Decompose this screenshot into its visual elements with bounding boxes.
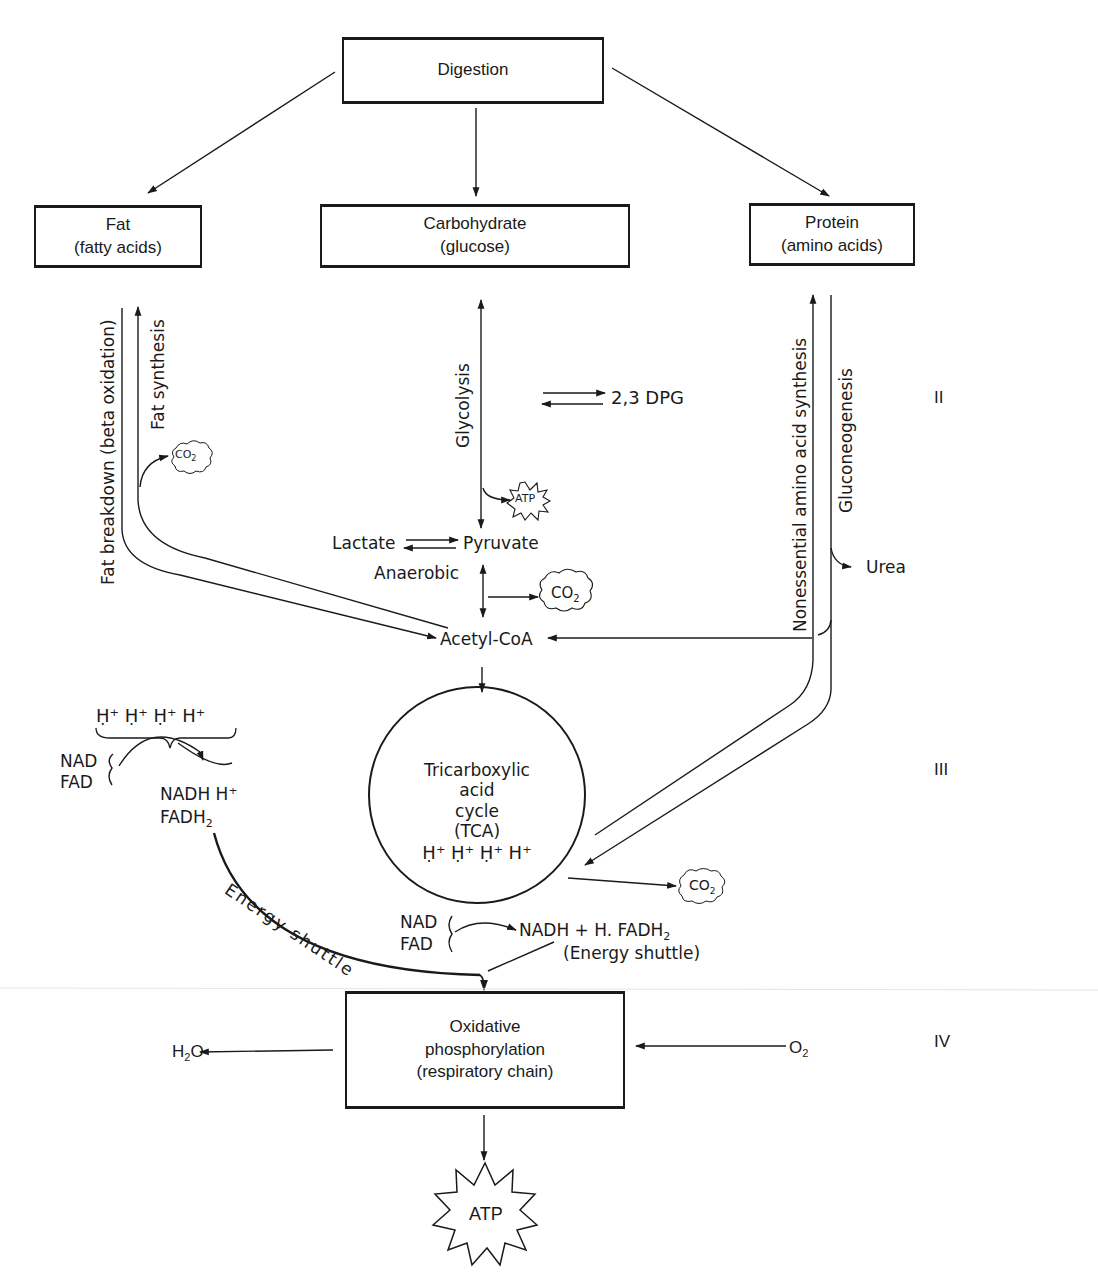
tca-line-3: cycle bbox=[397, 801, 557, 821]
left-nadh: NADH H⁺ bbox=[160, 785, 237, 805]
co2-pyruvate-label: CO2 bbox=[551, 585, 580, 605]
nonessential-amino-acid-label: Nonessential amino acid synthesis bbox=[790, 338, 810, 632]
tca-line-4: (TCA) bbox=[397, 821, 557, 841]
tca-protons: Ḥ⁺ Ḥ⁺ Ḥ⁺ H⁺ bbox=[397, 842, 557, 864]
left-fad: FAD bbox=[60, 773, 93, 793]
oxidative-phosphorylation-box: Oxidative phosphorylation (respiratory c… bbox=[345, 991, 625, 1109]
tca-energy-shuttle: (Energy shuttle) bbox=[563, 944, 700, 964]
fat-box: Fat (fatty acids) bbox=[34, 205, 202, 268]
protein-label: Protein bbox=[805, 212, 859, 235]
protein-sublabel: (amino acids) bbox=[781, 235, 883, 258]
stage-iv-label: IV bbox=[934, 1032, 950, 1052]
dpg-label: 2,3 DPG bbox=[611, 388, 684, 409]
lactate-label: Lactate bbox=[332, 534, 395, 554]
tca-label: Tricarboxylic acid cycle (TCA) Ḥ⁺ Ḥ⁺ H… bbox=[397, 760, 557, 863]
oxidative-label-1: Oxidative bbox=[450, 1016, 521, 1039]
co2-fat-label: CO2 bbox=[175, 449, 196, 463]
digestion-box: Digestion bbox=[342, 37, 604, 104]
tca-line-1: Tricarboxylic bbox=[397, 760, 557, 780]
atp-small-label: ATP bbox=[515, 493, 535, 506]
left-fadh2: FADH2 bbox=[160, 808, 213, 831]
tca-line-2: acid bbox=[397, 780, 557, 800]
tca-products: NADH + H. FADH2 bbox=[519, 921, 670, 944]
fat-sublabel: (fatty acids) bbox=[74, 237, 162, 260]
pyruvate-label: Pyruvate bbox=[463, 534, 539, 554]
urea-label: Urea bbox=[866, 558, 906, 578]
oxidative-label-3: (respiratory chain) bbox=[417, 1061, 554, 1084]
acetyl-coa-label: Acetyl-CoA bbox=[440, 630, 533, 650]
stage-iii-label: III bbox=[934, 760, 948, 780]
atp-final-label: ATP bbox=[469, 1204, 503, 1225]
protein-box: Protein (amino acids) bbox=[749, 203, 915, 266]
oxidative-label-2: phosphorylation bbox=[425, 1039, 545, 1062]
fat-label: Fat bbox=[106, 214, 131, 237]
tca-fad: FAD bbox=[400, 935, 433, 955]
gluconeogenesis-label: Gluconeogenesis bbox=[836, 368, 856, 513]
stage-ii-label: II bbox=[934, 388, 943, 408]
tca-nad: NAD bbox=[400, 913, 437, 933]
left-protons: Ḥ⁺ Ḥ⁺ Ḥ⁺ H⁺ bbox=[96, 706, 205, 727]
digestion-label: Digestion bbox=[438, 59, 509, 82]
h2o-label: H2O bbox=[172, 1042, 204, 1064]
carbohydrate-box: Carbohydrate (glucose) bbox=[320, 204, 630, 268]
glycolysis-label: Glycolysis bbox=[453, 363, 473, 448]
fat-synthesis-label: Fat synthesis bbox=[148, 319, 168, 430]
fat-breakdown-label: Fat breakdown (beta oxidation) bbox=[98, 319, 118, 585]
carbohydrate-label: Carbohydrate bbox=[423, 213, 526, 236]
anaerobic-label: Anaerobic bbox=[374, 564, 459, 584]
o2-label: O2 bbox=[789, 1038, 808, 1060]
left-nad: NAD bbox=[60, 752, 97, 772]
co2-tca-label: CO2 bbox=[689, 877, 716, 896]
carbohydrate-sublabel: (glucose) bbox=[440, 236, 510, 259]
